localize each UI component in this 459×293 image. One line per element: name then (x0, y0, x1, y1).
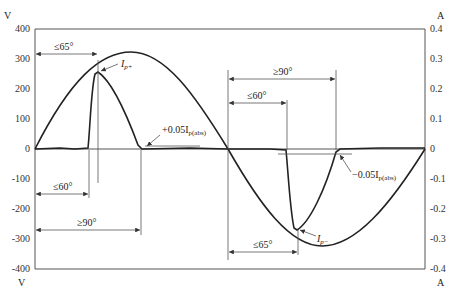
svg-text:400: 400 (15, 23, 30, 34)
v-unit-top: V (4, 10, 12, 21)
ipminus-label: Ip− (316, 233, 329, 246)
svg-text:200: 200 (15, 83, 30, 94)
svg-text:0.4: 0.4 (430, 23, 443, 34)
left-ticks: V 400 300 200 100 0 -100 -200 -300 -400 … (4, 10, 30, 288)
svg-text:-400: -400 (12, 263, 30, 274)
svg-text:≤60°: ≤60° (53, 181, 73, 192)
right-ticks: A 0.4 0.3 0.2 0.1 0 -0.1 -0.2 -0.3 -0.4 … (430, 10, 446, 288)
svg-text:-200: -200 (12, 203, 30, 214)
svg-text:≥90°: ≥90° (273, 66, 293, 77)
ipplus-pointer (101, 64, 118, 71)
svg-text:≤65°: ≤65° (253, 239, 273, 250)
svg-text:-100: -100 (12, 173, 30, 184)
svg-text:-300: -300 (12, 233, 30, 244)
chart: V 400 300 200 100 0 -100 -200 -300 -400 … (0, 0, 459, 293)
ipplus-label: Ip+ (120, 58, 133, 71)
ipminus-pointer (300, 230, 316, 236)
svg-text:≤60°: ≤60° (247, 90, 267, 101)
svg-text:100: 100 (15, 113, 30, 124)
v-unit-bottom: V (18, 277, 26, 288)
svg-text:-0.3: -0.3 (430, 233, 446, 244)
svg-text:≥90°: ≥90° (77, 217, 97, 228)
svg-text:≤65°: ≤65° (54, 41, 74, 52)
a-unit-top: A (437, 10, 445, 21)
minus005-label: −0.05Ip(abs) (352, 169, 397, 182)
svg-text:-0.2: -0.2 (430, 203, 446, 214)
svg-text:300: 300 (15, 53, 30, 64)
svg-text:-0.1: -0.1 (430, 173, 446, 184)
plus005-label: +0.05Ip(abs) (162, 124, 207, 137)
svg-text:0.2: 0.2 (430, 83, 443, 94)
svg-text:0.1: 0.1 (430, 113, 443, 124)
plus005-pointer (147, 135, 160, 146)
svg-text:-0.4: -0.4 (430, 263, 446, 274)
a-unit-bottom: A (437, 277, 445, 288)
svg-text:0.3: 0.3 (430, 53, 443, 64)
svg-text:0: 0 (25, 143, 30, 154)
svg-text:0: 0 (430, 143, 435, 154)
minus005-pointer (340, 155, 351, 172)
